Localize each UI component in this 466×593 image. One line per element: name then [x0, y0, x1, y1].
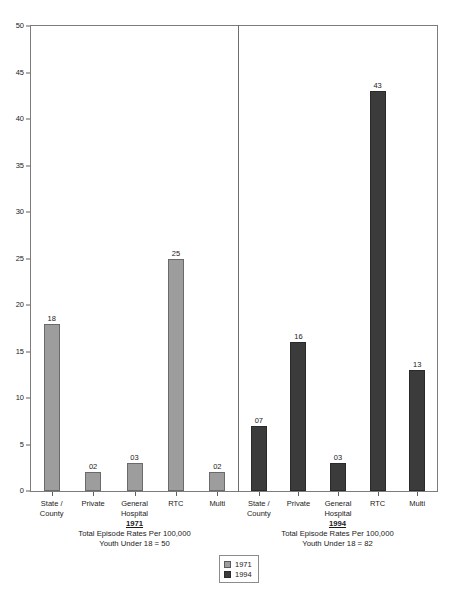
x-axis-tick-mark [298, 492, 299, 496]
legend-item: 1971 [224, 559, 252, 569]
legend-swatch-icon [224, 561, 231, 568]
bar-value-label: 07 [255, 417, 263, 425]
x-axis-tick-mark [417, 492, 418, 496]
chart-legend: 1971 1994 [219, 555, 259, 583]
y-axis-tick-mark [26, 444, 30, 445]
bar: 07 [251, 426, 267, 491]
bar-value-label: 03 [130, 454, 138, 462]
y-axis-tick-mark [26, 351, 30, 352]
bar: 02 [85, 472, 101, 491]
x-axis-label-line: Hospital [305, 509, 371, 519]
y-axis-tick-mark [26, 398, 30, 399]
y-axis-tick-label: 10 [0, 394, 24, 402]
x-axis-label-line: County [19, 509, 85, 519]
panel-caption-line1: Total Episode Rates Per 100,000 [20, 529, 250, 539]
panel-year: 1971 [20, 519, 250, 529]
legend-swatch-icon [224, 571, 231, 578]
legend-label: 1971 [235, 560, 252, 569]
panel-caption: 1994Total Episode Rates Per 100,000Youth… [223, 519, 453, 549]
y-axis-tick-label: 50 [0, 22, 24, 30]
panel-caption-line1: Total Episode Rates Per 100,000 [223, 529, 453, 539]
x-axis-label-line: County [226, 509, 292, 519]
bar: 16 [290, 342, 306, 491]
panel-year: 1994 [223, 519, 453, 529]
y-axis-tick-label: 40 [0, 115, 24, 123]
legend-label: 1994 [235, 570, 252, 579]
bar: 03 [127, 463, 143, 491]
y-axis-tick-label: 35 [0, 162, 24, 170]
bar-value-label: 02 [89, 463, 97, 471]
bar-value-label: 16 [294, 333, 302, 341]
x-axis-tick-mark [135, 492, 136, 496]
x-axis-tick-mark [52, 492, 53, 496]
bars-layer: 18020325020716034313 [31, 26, 437, 491]
y-axis-tick-mark [26, 212, 30, 213]
x-axis-tick-mark [378, 492, 379, 496]
y-axis-tick-label: 20 [0, 301, 24, 309]
x-axis-tick-mark [259, 492, 260, 496]
bar: 25 [168, 259, 184, 492]
y-axis-tick-label: 0 [0, 487, 24, 495]
y-axis-tick-mark [26, 119, 30, 120]
bar-value-label: 03 [334, 454, 342, 462]
x-axis-tick-mark [217, 492, 218, 496]
x-axis-label-line: Multi [384, 499, 450, 509]
y-axis-tick-mark [26, 491, 30, 492]
y-axis-tick-label: 5 [0, 441, 24, 449]
bar: 03 [330, 463, 346, 491]
x-axis-tick-label: Multi [384, 499, 450, 509]
y-axis-tick-mark [26, 72, 30, 73]
panel-caption: 1971Total Episode Rates Per 100,000Youth… [20, 519, 250, 549]
x-axis-tick-mark [176, 492, 177, 496]
y-axis-tick-label: 15 [0, 348, 24, 356]
bar: 43 [370, 91, 386, 491]
y-axis-tick-mark [26, 165, 30, 166]
bar: 18 [44, 324, 60, 491]
bar: 02 [209, 472, 225, 491]
panel-caption-line2: Youth Under 18 = 50 [20, 539, 250, 549]
bar-value-label: 43 [373, 82, 381, 90]
y-axis-tick-label: 25 [0, 255, 24, 262]
x-axis-tick-mark [338, 492, 339, 496]
bar-value-label: 13 [413, 361, 421, 369]
x-axis-tick-mark [93, 492, 94, 496]
bar-value-label: 02 [213, 463, 221, 471]
panel-caption-line2: Youth Under 18 = 82 [223, 539, 453, 549]
bar-chart: 05101520253035404550 1802032502071603431… [0, 0, 466, 593]
bar-value-label: 25 [172, 250, 180, 258]
y-axis-tick-mark [26, 258, 30, 259]
bar: 13 [409, 370, 425, 491]
y-axis-tick-mark [26, 26, 30, 27]
x-axis-label-line: Hospital [102, 509, 168, 519]
y-axis-tick-label: 45 [0, 69, 24, 77]
y-axis-tick-label: 30 [0, 208, 24, 216]
y-axis-tick-mark [26, 305, 30, 306]
legend-item: 1994 [224, 569, 252, 579]
bar-value-label: 18 [48, 315, 56, 323]
